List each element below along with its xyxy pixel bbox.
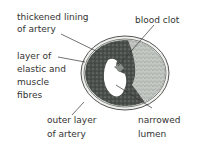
label-outer-layer: outer layer of artery	[47, 113, 96, 141]
label-blood-clot: blood clot	[135, 15, 179, 27]
label-narrowed-lumen: narrowed lumen	[138, 113, 180, 141]
label-thickened-lining: thickened lining of artery	[17, 12, 89, 35]
label-elastic-muscle: layer of elastic and muscle fibres	[17, 50, 66, 102]
